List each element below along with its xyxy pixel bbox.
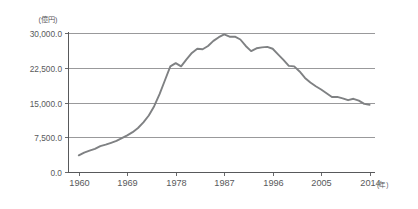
- y-axis-unit-label: (億円): [39, 15, 58, 24]
- plot-area-background: [68, 33, 375, 172]
- line-chart-figure: 0.07,500.015,000.022,500.030,000.0 19601…: [0, 0, 418, 209]
- y-tick-label-0: 0.0: [50, 168, 62, 178]
- x-axis-tick-labels: 1960196919781987199620052014: [69, 178, 380, 188]
- x-tick-label-1969: 1969: [117, 178, 137, 188]
- x-tick-label-1996: 1996: [263, 178, 283, 188]
- x-tick-label-1978: 1978: [166, 178, 186, 188]
- y-tick-label-30000: 30,000.0: [30, 29, 63, 39]
- x-tick-label-2005: 2005: [311, 178, 331, 188]
- y-axis-tick-marks: [65, 34, 69, 173]
- x-tick-label-1960: 1960: [69, 178, 89, 188]
- chart-canvas: 0.07,500.015,000.022,500.030,000.0 19601…: [0, 0, 418, 209]
- y-tick-label-7500: 7,500.0: [34, 133, 62, 143]
- x-tick-label-1987: 1987: [214, 178, 234, 188]
- y-axis-tick-labels: 0.07,500.015,000.022,500.030,000.0: [30, 29, 63, 178]
- x-axis-unit-label: (年): [377, 180, 388, 189]
- y-tick-label-15000: 15,000.0: [30, 99, 63, 109]
- y-tick-label-22500: 22,500.0: [30, 64, 63, 74]
